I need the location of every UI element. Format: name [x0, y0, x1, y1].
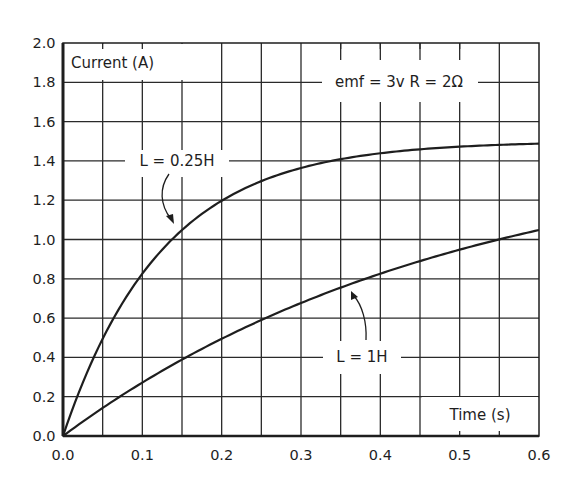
curve-label-l-025h: L = 0.25H: [139, 152, 214, 170]
curve-label-l-1h: L = 1H: [336, 348, 387, 366]
y-tick-label: 0.4: [32, 349, 55, 365]
y-tick-label: 1.0: [32, 232, 55, 248]
x-axis-title: Time (s): [449, 406, 511, 424]
x-tick-label: 0.4: [369, 447, 392, 463]
x-tick-label: 0.6: [527, 447, 550, 463]
y-tick-label: 1.6: [32, 114, 55, 130]
rl-current-chart: 0.00.20.40.60.81.01.21.41.61.82.00.00.10…: [0, 0, 570, 490]
arrow-icon-l-025h: [162, 174, 174, 224]
y-tick-label: 1.8: [32, 74, 55, 90]
y-tick-label: 1.4: [32, 153, 55, 169]
y-tick-label: 1.2: [32, 192, 55, 208]
y-axis-title: Current (A): [71, 54, 154, 72]
x-tick-label: 0.3: [289, 447, 312, 463]
y-tick-label: 0.0: [32, 428, 55, 444]
x-tick-label: 0.0: [51, 447, 74, 463]
y-tick-label: 2.0: [32, 35, 55, 51]
x-tick-label: 0.1: [131, 447, 154, 463]
y-tick-label: 0.6: [32, 310, 55, 326]
x-tick-label: 0.2: [210, 447, 233, 463]
y-tick-label: 0.8: [32, 271, 55, 287]
x-tick-label: 0.5: [448, 447, 471, 463]
parameters-label: emf = 3v R = 2Ω: [335, 73, 463, 91]
arrow-icon-l-1h: [351, 291, 366, 340]
y-tick-label: 0.2: [32, 389, 55, 405]
